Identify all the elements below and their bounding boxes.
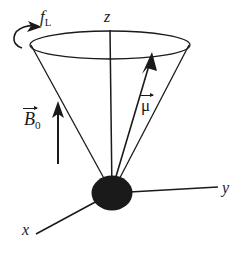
larmor-frequency-label: fL <box>40 8 51 25</box>
magnetic-moment-vector <box>112 52 157 190</box>
larmor-precession-figure: fL z μ B0 y x <box>0 0 247 255</box>
z-axis-label: z <box>104 9 110 25</box>
b0-field-label: B0 <box>24 108 41 128</box>
z-axis-line <box>110 30 112 193</box>
magnetic-moment-symbol: μ <box>141 96 150 115</box>
b0-field-vector <box>52 101 64 164</box>
b0-vector-accent <box>23 108 37 109</box>
mu-shaft <box>112 62 150 190</box>
larmor-frequency-subscript: L <box>45 17 51 28</box>
b0-vector-accent-wrap: B <box>24 108 35 128</box>
nucleus <box>92 176 133 211</box>
x-axis-label: x <box>22 222 29 238</box>
mu-vector-accent-wrap: μ <box>141 95 150 114</box>
magnetic-moment-label: μ <box>141 95 150 114</box>
b0-subscript: 0 <box>35 119 41 131</box>
cone-left-edge <box>31 45 112 193</box>
mu-vector-accent <box>140 95 153 96</box>
y-axis-label: y <box>222 180 229 196</box>
mu-arrowhead <box>142 52 157 74</box>
b0-base: B <box>24 109 35 129</box>
